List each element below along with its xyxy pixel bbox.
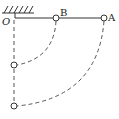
label-o: O: [2, 16, 10, 27]
label-b: B: [60, 7, 67, 18]
label-a: A: [107, 12, 116, 23]
ceiling-support: [2, 6, 34, 13]
arc-a: [17, 21, 104, 106]
arc-b: [17, 21, 56, 65]
ball-a: [101, 15, 107, 21]
ball-a-lowest: [11, 103, 17, 109]
pendulum-diagram: O B A: [0, 0, 119, 119]
ball-b-lowest: [11, 62, 17, 68]
ball-b: [53, 15, 59, 21]
